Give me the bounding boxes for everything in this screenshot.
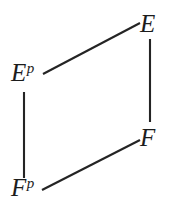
edge-ep-to-e: [43, 23, 140, 74]
node-fp-superscript: p: [27, 175, 35, 191]
edge-fp-to-f: [42, 140, 140, 190]
node-f-base: F: [140, 124, 155, 151]
node-label-ep: Ep: [11, 60, 34, 85]
node-label-e: E: [140, 11, 155, 36]
diagram-figure: E Ep F Fp: [0, 0, 170, 222]
node-label-f: F: [140, 125, 155, 150]
node-ep-superscript: p: [27, 60, 35, 76]
node-e-base: E: [140, 10, 155, 37]
node-fp-base: F: [11, 174, 26, 201]
node-ep-base: E: [11, 59, 26, 86]
node-label-fp: Fp: [11, 175, 34, 200]
